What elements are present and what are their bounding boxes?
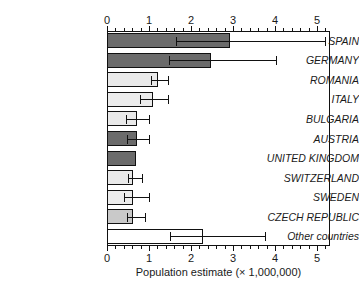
- error-bar-line: [126, 119, 149, 120]
- error-bar-cap: [124, 193, 125, 202]
- x-tick-minor: [174, 28, 175, 31]
- x-tick-minor: [183, 246, 184, 249]
- x-tick-minor: [267, 246, 268, 249]
- category-label: BULGARIA: [255, 114, 359, 125]
- error-bar-cap: [176, 37, 177, 46]
- x-tick-minor: [267, 28, 268, 31]
- x-tick-major: [275, 26, 276, 31]
- x-tick-minor: [174, 246, 175, 249]
- x-tick-minor: [115, 246, 116, 249]
- x-tick-minor: [325, 28, 326, 31]
- x-tick-major: [107, 246, 108, 251]
- error-bar-line: [176, 41, 325, 42]
- x-tick-minor: [115, 28, 116, 31]
- error-bar-cap: [151, 76, 152, 85]
- x-tick-minor: [300, 246, 301, 249]
- x-tick-label: 2: [176, 14, 206, 26]
- x-tick-minor: [166, 28, 167, 31]
- x-tick-major: [149, 26, 150, 31]
- x-tick-label: 0: [92, 252, 122, 264]
- error-bar-cap: [168, 95, 169, 104]
- x-tick-label: 5: [302, 14, 332, 26]
- population-estimate-bar-chart: 012345 012345 SPAINGERMANYROMANIAITALYBU…: [0, 0, 359, 288]
- error-bar-line: [128, 178, 142, 179]
- x-tick-minor: [132, 246, 133, 249]
- category-label: SWITZERLAND: [255, 173, 359, 184]
- category-label: ITALY: [255, 94, 359, 105]
- x-tick-minor: [225, 28, 226, 31]
- x-tick-label: 5: [302, 252, 332, 264]
- x-tick-major: [275, 246, 276, 251]
- error-bar-cap: [325, 37, 326, 46]
- x-tick-minor: [300, 28, 301, 31]
- category-label: UNITED KINGDOM: [255, 153, 359, 164]
- x-tick-major: [317, 246, 318, 251]
- error-bar-line: [140, 99, 168, 100]
- x-tick-minor: [157, 246, 158, 249]
- error-bar-cap: [276, 56, 277, 65]
- x-tick-major: [149, 246, 150, 251]
- x-tick-label: 4: [260, 14, 290, 26]
- error-bar-cap: [140, 95, 141, 104]
- x-tick-minor: [141, 28, 142, 31]
- x-tick-label: 1: [134, 252, 164, 264]
- x-tick-minor: [199, 246, 200, 249]
- x-tick-minor: [309, 246, 310, 249]
- x-tick-minor: [283, 246, 284, 249]
- error-bar-cap: [265, 232, 266, 241]
- x-tick-minor: [309, 28, 310, 31]
- x-tick-minor: [250, 28, 251, 31]
- error-bar-cap: [149, 193, 150, 202]
- x-tick-major: [233, 246, 234, 251]
- x-tick-minor: [124, 246, 125, 249]
- x-tick-label: 0: [92, 14, 122, 26]
- error-bar-cap: [168, 76, 169, 85]
- error-bar-cap: [149, 135, 150, 144]
- x-tick-minor: [124, 28, 125, 31]
- error-bar-line: [127, 139, 149, 140]
- x-tick-minor: [325, 246, 326, 249]
- error-bar-cap: [127, 213, 128, 222]
- x-tick-major: [317, 26, 318, 31]
- x-tick-major: [233, 26, 234, 31]
- x-tick-minor: [141, 246, 142, 249]
- error-bar-line: [151, 80, 168, 81]
- x-tick-minor: [292, 28, 293, 31]
- error-bar-cap: [170, 232, 171, 241]
- error-bar-cap: [126, 115, 127, 124]
- category-label: SWEDEN: [255, 192, 359, 203]
- x-tick-minor: [166, 246, 167, 249]
- x-tick-label: 3: [218, 14, 248, 26]
- error-bar-cap: [127, 135, 128, 144]
- bar: [107, 151, 136, 166]
- x-tick-label: 2: [176, 252, 206, 264]
- x-tick-minor: [157, 28, 158, 31]
- error-bar-cap: [145, 213, 146, 222]
- x-tick-minor: [283, 28, 284, 31]
- category-label: CZECH REPUBLIC: [255, 212, 359, 223]
- x-tick-major: [191, 246, 192, 251]
- error-bar-line: [169, 60, 276, 61]
- x-tick-minor: [241, 28, 242, 31]
- x-tick-minor: [258, 246, 259, 249]
- x-tick-label: 1: [134, 14, 164, 26]
- error-bar-line: [127, 217, 145, 218]
- x-tick-label: 4: [260, 252, 290, 264]
- x-axis-label: Population estimate (× 1,000,000): [107, 266, 330, 278]
- error-bar-cap: [169, 56, 170, 65]
- category-label: AUSTRIA: [255, 134, 359, 145]
- error-bar-line: [170, 236, 265, 237]
- x-tick-minor: [250, 246, 251, 249]
- x-tick-minor: [208, 28, 209, 31]
- x-tick-minor: [216, 28, 217, 31]
- error-bar-cap: [149, 115, 150, 124]
- x-tick-minor: [199, 28, 200, 31]
- error-bar-line: [124, 197, 149, 198]
- x-tick-minor: [132, 28, 133, 31]
- x-tick-minor: [292, 246, 293, 249]
- x-tick-minor: [216, 246, 217, 249]
- error-bar-cap: [142, 174, 143, 183]
- x-tick-major: [191, 26, 192, 31]
- x-tick-minor: [241, 246, 242, 249]
- category-label: Other countries: [255, 231, 359, 242]
